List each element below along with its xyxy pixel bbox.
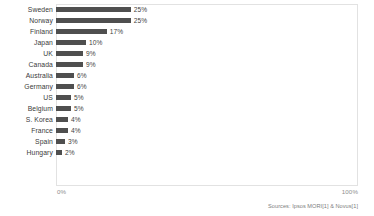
bar-row: Canada9% (0, 59, 374, 70)
bar-row: UK9% (0, 48, 374, 59)
bar-value-label: 25% (134, 4, 148, 15)
bar-value-label: 4% (71, 114, 81, 125)
bar-track: 25% (56, 4, 374, 15)
bar-track: 10% (56, 37, 374, 48)
bar-category-label: Australia (0, 70, 56, 81)
bar-value-label: 25% (134, 15, 148, 26)
bar-value-label: 9% (86, 48, 96, 59)
bar (56, 139, 65, 144)
bar-row: Sweden25% (0, 4, 374, 15)
bar-row: US5% (0, 92, 374, 103)
bar-track: 5% (56, 92, 374, 103)
bar-track: 25% (56, 15, 374, 26)
bar-value-label: 5% (74, 103, 84, 114)
bar-category-label: S. Korea (0, 114, 56, 125)
bar-category-label: Germany (0, 81, 56, 92)
bar-category-label: US (0, 92, 56, 103)
bar-row: Hungary2% (0, 147, 374, 158)
source-attribution: Sources: Ipsos MORI[1] & Novus[1] (268, 203, 358, 209)
bar-value-label: 2% (65, 147, 75, 158)
bar-track: 4% (56, 125, 374, 136)
bar (56, 106, 71, 111)
bar-track: 2% (56, 147, 374, 158)
bar-row: Japan10% (0, 37, 374, 48)
bar-track: 6% (56, 70, 374, 81)
bar (56, 18, 131, 23)
bar-category-label: Spain (0, 136, 56, 147)
bar-rows-container: Sweden25%Norway25%Finland17%Japan10%UK9%… (0, 4, 374, 186)
bar-row: Spain3% (0, 136, 374, 147)
bar-value-label: 6% (77, 70, 87, 81)
bar (56, 29, 107, 34)
bar-track: 5% (56, 103, 374, 114)
bar-value-label: 9% (86, 59, 96, 70)
bar-value-label: 4% (71, 125, 81, 136)
bar-row: S. Korea4% (0, 114, 374, 125)
bar-row: France4% (0, 125, 374, 136)
bar (56, 84, 74, 89)
bar-track: 9% (56, 59, 374, 70)
bar (56, 62, 83, 67)
bar-track: 3% (56, 136, 374, 147)
bar-category-label: Belgium (0, 103, 56, 114)
bar-value-label: 10% (89, 37, 103, 48)
bar (56, 95, 71, 100)
bar-row: Germany6% (0, 81, 374, 92)
bar (56, 128, 68, 133)
bar-category-label: Canada (0, 59, 56, 70)
bar-category-label: Japan (0, 37, 56, 48)
bar-category-label: UK (0, 48, 56, 59)
bar-category-label: Norway (0, 15, 56, 26)
x-axis-tick-min: 0% (57, 188, 66, 195)
bar (56, 150, 62, 155)
bar-category-label: Hungary (0, 147, 56, 158)
bar (56, 40, 86, 45)
bar-value-label: 3% (68, 136, 78, 147)
bar-row: Norway25% (0, 15, 374, 26)
bar (56, 117, 68, 122)
bar-track: 17% (56, 26, 374, 37)
bar-chart: Sweden25%Norway25%Finland17%Japan10%UK9%… (0, 0, 374, 216)
x-axis-tick-max: 100% (342, 188, 358, 195)
x-axis-ticks: 0% 100% (0, 188, 374, 198)
bar-track: 6% (56, 81, 374, 92)
bar-row: Finland17% (0, 26, 374, 37)
bar-value-label: 6% (77, 81, 87, 92)
bar-track: 4% (56, 114, 374, 125)
bar-value-label: 5% (74, 92, 84, 103)
bar-category-label: Sweden (0, 4, 56, 15)
bar (56, 51, 83, 56)
bar-row: Australia6% (0, 70, 374, 81)
bar-value-label: 17% (110, 26, 124, 37)
bar-row: Belgium5% (0, 103, 374, 114)
bar (56, 7, 131, 12)
bar (56, 73, 74, 78)
bar-category-label: Finland (0, 26, 56, 37)
bar-track: 9% (56, 48, 374, 59)
bar-category-label: France (0, 125, 56, 136)
